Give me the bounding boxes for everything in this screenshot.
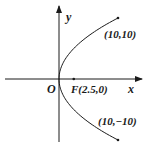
origin-label: O [47, 82, 56, 96]
focus-label: F(2.5,0) [70, 83, 108, 96]
x-axis-label: x [127, 82, 134, 96]
endpoint-upper [117, 17, 120, 20]
endpoint-upper-label: (10,10) [104, 28, 136, 41]
parabola-diagram: y x O F(2.5,0) (10,10) (10,−10) [0, 0, 148, 147]
focus-point [72, 78, 75, 81]
endpoint-lower [117, 139, 120, 142]
y-axis-label: y [64, 10, 72, 24]
endpoint-lower-label: (10,−10) [98, 115, 137, 128]
